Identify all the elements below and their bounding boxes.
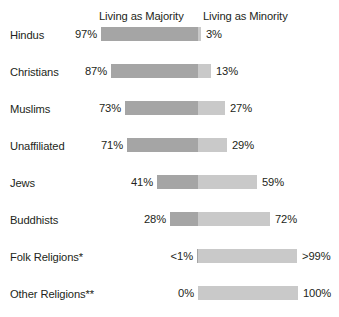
majority-value-label: 71%: [81, 138, 123, 152]
stacked-bar: [125, 101, 225, 115]
bar-segment-minority: [198, 27, 201, 41]
bar-segment-majority: [170, 212, 198, 226]
table-row: Christians87%13%: [0, 56, 339, 86]
bar-segment-majority: [125, 101, 198, 115]
table-row: Unaffiliated71%29%: [0, 130, 339, 160]
stacked-bar: [101, 27, 201, 41]
stacked-bar: [198, 286, 298, 300]
minority-value-label: 13%: [216, 64, 238, 78]
bar-segment-minority: [198, 101, 225, 115]
table-row: Hindus97%3%: [0, 19, 339, 49]
minority-value-label: 3%: [206, 27, 222, 41]
table-row: Buddhists28%72%: [0, 204, 339, 234]
stacked-bar: [197, 249, 297, 263]
bar-segment-minority: [198, 249, 297, 263]
bar-segment-minority: [198, 175, 257, 189]
category-label: Hindus: [10, 28, 44, 42]
category-label: Jews: [10, 176, 35, 190]
bar-segment-majority: [101, 27, 198, 41]
majority-value-label: 73%: [79, 101, 121, 115]
minority-value-label: 59%: [262, 175, 284, 189]
majority-value-label: 0%: [152, 286, 194, 300]
majority-value-label: 97%: [55, 27, 97, 41]
category-label: Muslims: [10, 102, 50, 116]
minority-value-label: 72%: [275, 212, 297, 226]
bar-segment-minority: [198, 212, 270, 226]
category-label: Other Religions**: [10, 287, 94, 301]
stacked-bar: [170, 212, 270, 226]
stacked-bar: [157, 175, 257, 189]
bar-segment-majority: [127, 138, 198, 152]
bar-segment-minority: [198, 286, 298, 300]
table-row: Other Religions**0%100%: [0, 278, 339, 308]
category-label: Folk Religions*: [10, 250, 83, 264]
majority-value-label: 41%: [111, 175, 153, 189]
table-row: Jews41%59%: [0, 167, 339, 197]
bar-segment-majority: [157, 175, 198, 189]
minority-value-label: 100%: [303, 286, 331, 300]
minority-value-label: >99%: [302, 249, 331, 263]
category-label: Unaffiliated: [10, 139, 65, 153]
stacked-bar: [111, 64, 211, 78]
minority-value-label: 27%: [230, 101, 252, 115]
bar-segment-majority: [111, 64, 198, 78]
table-row: Muslims73%27%: [0, 93, 339, 123]
category-label: Christians: [10, 65, 59, 79]
stacked-bar: [127, 138, 227, 152]
minority-value-label: 29%: [232, 138, 254, 152]
category-label: Buddhists: [10, 213, 58, 227]
majority-value-label: <1%: [151, 249, 193, 263]
majority-value-label: 87%: [65, 64, 107, 78]
bar-segment-minority: [198, 138, 227, 152]
stacked-bar-chart: Living as Majority Living as Minority Hi…: [0, 0, 339, 317]
table-row: Folk Religions*<1%>99%: [0, 241, 339, 271]
majority-value-label: 28%: [124, 212, 166, 226]
bar-segment-minority: [198, 64, 211, 78]
